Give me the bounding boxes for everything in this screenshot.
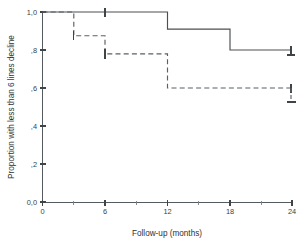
- x-axis-title: Follow-up (months): [132, 229, 202, 238]
- y-tick-label-1: 1,0: [27, 8, 37, 17]
- x-tick-label-0: 0: [40, 207, 44, 216]
- survival-plot-svg: 1,0 ,8 ,6 ,4 ,2 0,0 0 6 12 18 2: [0, 0, 307, 248]
- y-tick-label-06: ,6: [31, 84, 37, 93]
- x-tick-label-24: 24: [288, 207, 296, 216]
- x-tick-label-12: 12: [163, 207, 171, 216]
- y-axis-title: Proportion with less than 6 lines declin…: [7, 35, 16, 179]
- y-tick-label-0: 0,0: [27, 198, 37, 207]
- x-tick-label-18: 18: [226, 207, 234, 216]
- x-tick-label-6: 6: [103, 207, 107, 216]
- plot-background: [0, 0, 307, 248]
- y-tick-label-04: ,4: [31, 122, 37, 131]
- kaplan-meier-chart: 1,0 ,8 ,6 ,4 ,2 0,0 0 6 12 18 2: [0, 0, 307, 248]
- y-tick-label-02: ,2: [31, 160, 37, 169]
- y-tick-label-08: ,8: [31, 46, 37, 55]
